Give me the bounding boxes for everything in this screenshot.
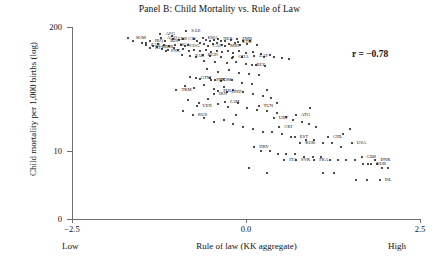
- data-point: [189, 55, 191, 57]
- data-point-label: KOR: [305, 141, 315, 146]
- data-point-label: VEN: [202, 103, 212, 108]
- data-point: [236, 38, 238, 40]
- data-point: [288, 58, 290, 60]
- data-point-label: GHA: [238, 54, 248, 59]
- data-point: [354, 159, 356, 161]
- data-point: [301, 121, 303, 123]
- data-point: [299, 142, 301, 144]
- data-point: [248, 73, 250, 75]
- data-point: [227, 106, 229, 108]
- data-point: [294, 153, 296, 155]
- data-point: [193, 49, 195, 51]
- data-point: [238, 72, 240, 74]
- data-point: [349, 128, 351, 130]
- x-axis-title: Rule of law (KK aggregate): [72, 241, 421, 251]
- data-point: [182, 110, 184, 112]
- data-point-label: TUN: [264, 103, 274, 108]
- chart-title: Panel B: Child Mortality vs. Rule of Law: [0, 4, 439, 14]
- y-axis-title: Child mortality per 1,000 births (log): [28, 14, 38, 204]
- data-point: [226, 62, 228, 64]
- data-point: [327, 136, 329, 138]
- data-point: [246, 107, 248, 109]
- data-point: [260, 150, 262, 152]
- data-point: [198, 102, 200, 104]
- data-point: [231, 79, 233, 81]
- data-point: [182, 48, 184, 50]
- data-point: [262, 95, 264, 97]
- data-point: [141, 42, 143, 44]
- data-point-label: SOM: [136, 36, 146, 41]
- data-point-label: HTI: [155, 46, 163, 51]
- data-point: [188, 50, 190, 52]
- data-point: [203, 84, 205, 86]
- data-point: [217, 90, 219, 92]
- data-point-label: HND: [232, 89, 242, 94]
- data-point: [329, 159, 331, 161]
- data-point-label: NOR: [376, 162, 386, 167]
- data-point: [245, 63, 247, 65]
- data-point: [351, 142, 353, 144]
- data-point: [381, 167, 383, 169]
- data-point: [266, 110, 268, 112]
- data-point: [213, 93, 215, 95]
- data-point-label: ETH: [243, 39, 252, 44]
- data-point: [290, 136, 292, 138]
- x-tick-mark: [420, 219, 421, 223]
- data-point: [242, 91, 244, 93]
- data-point: [217, 103, 219, 105]
- data-point-label: ISL: [385, 177, 392, 182]
- data-point: [309, 107, 311, 109]
- data-point: [172, 38, 174, 40]
- data-point-label: PNG: [171, 49, 180, 54]
- data-point: [276, 112, 278, 114]
- data-point: [187, 99, 189, 101]
- data-point-label: TKM: [181, 87, 191, 92]
- data-point: [226, 91, 228, 93]
- data-point: [251, 64, 253, 66]
- data-point-label: DOM: [220, 77, 231, 82]
- data-point-label: URY: [279, 116, 289, 121]
- data-point: [248, 167, 250, 169]
- data-point: [266, 172, 268, 174]
- data-point-label: MRT: [230, 44, 240, 49]
- data-point-label: NER: [223, 37, 232, 42]
- data-point: [271, 131, 273, 133]
- data-point: [207, 45, 209, 47]
- data-point-label: ATG: [301, 112, 310, 117]
- data-point: [285, 153, 287, 155]
- data-point: [175, 89, 177, 91]
- data-point: [333, 172, 335, 174]
- data-point: [253, 146, 255, 148]
- data-point: [295, 114, 297, 116]
- data-point: [189, 76, 191, 78]
- data-point: [213, 88, 215, 90]
- data-point: [202, 54, 204, 56]
- data-point: [241, 82, 243, 84]
- data-point: [223, 119, 225, 121]
- x-tick-label: 0.0: [241, 224, 252, 234]
- data-point: [252, 51, 254, 53]
- data-point: [262, 131, 264, 133]
- data-point: [235, 114, 237, 116]
- data-point: [220, 56, 222, 58]
- data-point: [322, 142, 324, 144]
- data-point: [340, 146, 342, 148]
- data-point: [313, 159, 315, 161]
- data-point: [159, 33, 161, 35]
- data-point: [292, 119, 294, 121]
- data-point-label: CHL: [333, 135, 342, 140]
- scatter-plot-area: SOMAFGS.LEAGOIRQBDILBRCIVRWANERZMBETHZAR…: [72, 27, 420, 219]
- data-point: [269, 54, 271, 56]
- data-point: [145, 44, 147, 46]
- data-point: [345, 159, 347, 161]
- data-point: [242, 126, 244, 128]
- data-point: [253, 55, 255, 57]
- data-point: [207, 98, 209, 100]
- data-point: [258, 74, 260, 76]
- data-point: [367, 163, 369, 165]
- data-point: [195, 77, 197, 79]
- data-point-label: FRA: [319, 158, 328, 163]
- data-point: [276, 102, 278, 104]
- data-point: [337, 159, 339, 161]
- data-point: [312, 156, 314, 158]
